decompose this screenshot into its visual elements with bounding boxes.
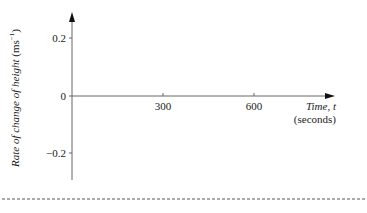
y-tick-label-0: 0 <box>26 90 66 102</box>
x-axis-label-name: Time, t <box>256 100 336 113</box>
y-axis-label-name: Rate of change of height <box>9 59 21 167</box>
y-axis-label-exponent: −1 <box>8 33 16 40</box>
x-tick-label-300: 300 <box>143 100 183 112</box>
y-axis-label-close: ) <box>9 29 21 33</box>
y-tick-label-0.2: 0.2 <box>26 32 66 44</box>
y-tick-label-neg0.2: −0.2 <box>26 147 66 159</box>
y-axis-label-units: (ms <box>9 40 21 57</box>
y-axis-label: Rate of change of height (ms−1) <box>6 29 21 167</box>
x-axis-label-units: (seconds) <box>256 113 336 126</box>
x-axis-label: Time, t (seconds) <box>256 100 336 126</box>
x-axis-arrow-icon <box>325 93 335 99</box>
y-axis-arrow-icon <box>69 12 75 22</box>
